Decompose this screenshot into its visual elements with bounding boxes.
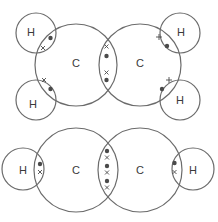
dot-electron-icon — [104, 54, 108, 58]
cross-electron-icon — [105, 156, 109, 160]
ethene-molecule: C C H H H H — [16, 13, 200, 120]
hydrogen-label: H — [27, 26, 35, 38]
cross-electron-icon — [41, 46, 45, 50]
cross-electron-icon — [105, 45, 109, 49]
dot-electron-icon — [104, 78, 108, 82]
ch-bond-electrons-right — [172, 161, 176, 174]
dot-electron-icon — [160, 87, 164, 91]
ch-bond-electrons-top-left — [41, 36, 53, 50]
cross-electron-icon — [105, 186, 109, 190]
ch-bond-electrons-top-right — [156, 34, 169, 48]
cross-electron-icon — [105, 71, 109, 75]
dot-electron-icon — [105, 149, 109, 153]
hydrogen-label: H — [189, 164, 197, 176]
hc-bond-electrons-left — [38, 162, 42, 174]
cross-electron-icon — [173, 170, 177, 174]
dot-electron-icon — [38, 162, 42, 166]
hydrogen-label: H — [29, 98, 37, 110]
dot-cross-diagram: C C H H H H — [0, 0, 218, 222]
dot-electron-icon — [105, 164, 109, 168]
hydrogen-label: H — [19, 164, 27, 176]
carbon-label: C — [136, 57, 144, 69]
dot-electron-icon — [165, 44, 169, 48]
carbon-label: C — [72, 57, 80, 69]
dot-electron-icon — [172, 161, 176, 165]
ch-bond-electrons-bottom-right — [160, 77, 172, 91]
cross-electron-icon — [38, 170, 42, 174]
dot-electron-icon — [48, 87, 52, 91]
hydrogen-label: H — [176, 94, 184, 106]
cross-electron-icon — [105, 171, 109, 175]
carbon-label: C — [72, 164, 80, 176]
hydrogen-label: H — [177, 26, 185, 38]
dot-electron-icon — [48, 36, 52, 40]
dot-electron-icon — [105, 179, 109, 183]
double-bond-electrons — [104, 45, 108, 83]
carbon-label: C — [136, 164, 144, 176]
triple-bond-electrons — [105, 149, 109, 190]
ethyne-molecule: C C H H — [2, 128, 214, 212]
